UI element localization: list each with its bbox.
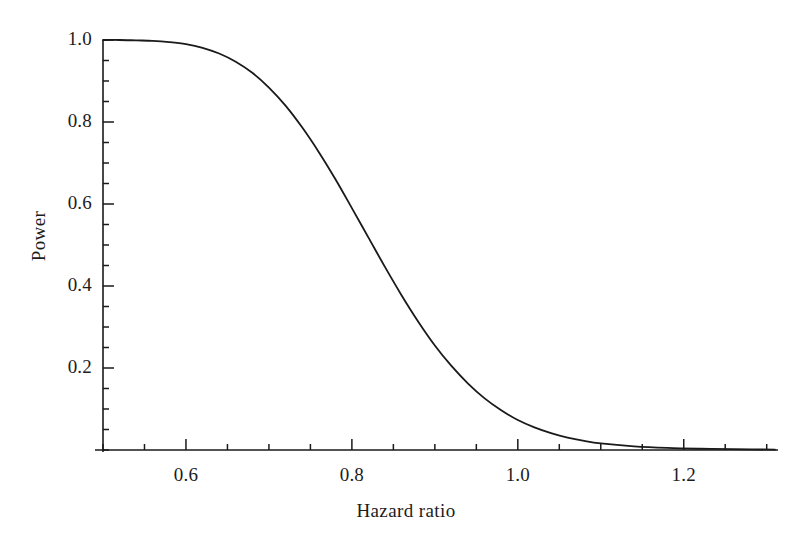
y-axis-ticks: [103, 40, 114, 450]
axes: [95, 40, 778, 452]
power-curve-line: [103, 40, 775, 450]
power-curve-chart: 0.20.40.60.81.0 0.60.81.01.2 Power Hazar…: [0, 0, 812, 542]
plot-area: [0, 0, 812, 542]
